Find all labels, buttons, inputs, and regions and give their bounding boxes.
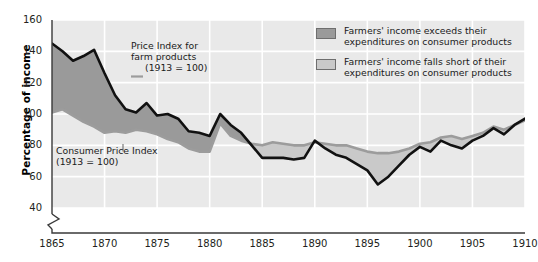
farm-annotation: Price Index for farm products (1913 = 10…	[131, 40, 207, 74]
cpi-annotation-line-1: Consumer Price Index	[56, 145, 158, 156]
legend-label-income-falls-short: Farmers' income falls short of their exp…	[344, 57, 512, 79]
x-tick-1880: 1880	[188, 238, 232, 249]
y-tick-100: 100	[8, 108, 42, 119]
y-tick-60: 60	[8, 171, 42, 182]
legend-swatch-income-falls-short	[316, 59, 336, 70]
legend-label-income-falls-short-line-2: expenditures on consumer products	[344, 68, 512, 79]
x-tick-1905: 1905	[450, 238, 494, 249]
x-tick-1890: 1890	[293, 238, 337, 249]
farm-annotation-line-3: (1913 = 100)	[131, 62, 207, 73]
x-axis-line	[52, 229, 525, 233]
legend-label-income-exceeds: Farmers' income exceeds their expenditur…	[344, 26, 512, 48]
y-tick-120: 120	[8, 77, 42, 88]
y-tick-160: 160	[8, 14, 42, 25]
legend-label-income-exceeds-line-2: expenditures on consumer products	[344, 37, 512, 48]
y-tick-80: 80	[8, 139, 42, 150]
x-tick-1910: 1910	[503, 238, 538, 249]
x-tick-1865: 1865	[30, 238, 74, 249]
legend-swatch-income-exceeds	[316, 28, 336, 39]
cpi-annotation: Consumer Price Index (1913 = 100)	[56, 145, 158, 167]
y-tick-140: 140	[8, 45, 42, 56]
x-tick-1885: 1885	[240, 238, 284, 249]
x-tick-1900: 1900	[398, 238, 442, 249]
x-tick-1895: 1895	[345, 238, 389, 249]
cpi-annotation-line-2: (1913 = 100)	[56, 156, 158, 167]
farm-annotation-line-2: farm products	[131, 51, 207, 62]
farm-annotation-line-1: Price Index for	[131, 40, 207, 51]
chart-figure: Percentage of income 160140120100806040 …	[0, 0, 538, 262]
x-tick-1875: 1875	[135, 238, 179, 249]
y-axis-break-symbol	[48, 214, 59, 229]
y-tick-40: 40	[8, 202, 42, 213]
x-tick-1870: 1870	[83, 238, 127, 249]
